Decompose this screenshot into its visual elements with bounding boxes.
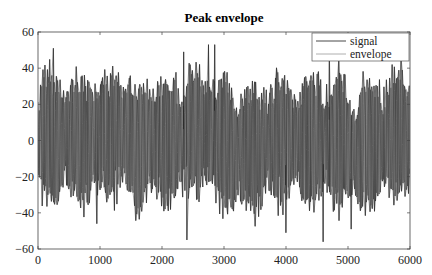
- y-tick-label: −60: [15, 242, 34, 256]
- y-tick-label: 20: [22, 97, 34, 111]
- x-tick-label: 2000: [150, 253, 174, 267]
- legend-signal-label: signal: [350, 35, 377, 48]
- x-tick-label: 6000: [398, 253, 422, 267]
- y-tick-label: −20: [15, 170, 34, 184]
- y-tick-label: 60: [22, 25, 34, 39]
- y-tick-label: −40: [15, 206, 34, 220]
- y-tick-label: 40: [22, 61, 34, 75]
- x-tick-label: 1000: [88, 253, 112, 267]
- y-tick-label: 0: [28, 134, 34, 148]
- chart-title: Peak envelope: [184, 10, 263, 25]
- x-tick-label: 4000: [274, 253, 298, 267]
- legend: signal envelope: [312, 33, 409, 61]
- peak-envelope-chart: Peak envelope 0100020003000400050006000 …: [0, 0, 432, 275]
- x-tick-label: 3000: [212, 253, 236, 267]
- legend-envelope-label: envelope: [350, 48, 392, 61]
- x-tick-label: 0: [35, 253, 41, 267]
- x-tick-label: 5000: [336, 253, 360, 267]
